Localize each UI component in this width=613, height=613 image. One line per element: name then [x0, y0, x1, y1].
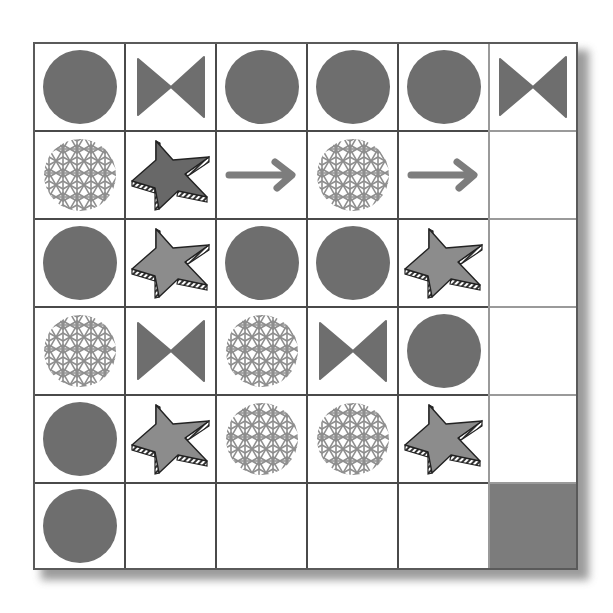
grid-cell-r2-c5	[399, 132, 490, 220]
grid-cell-r1-c1	[35, 44, 126, 132]
grid-cell-r1-c2	[126, 44, 217, 132]
grid-cell-r5-c6	[488, 396, 576, 484]
grid-cell-r4-c5	[399, 308, 490, 396]
patterned-circle-icon	[42, 313, 118, 389]
star-icon	[402, 402, 486, 476]
solid-circle-icon	[223, 48, 301, 126]
patterned-circle-icon	[42, 137, 118, 213]
grid-cell-r5-c5	[399, 396, 490, 484]
grid-cell-r6-c6	[488, 484, 576, 568]
grid-cell-r3-c5	[399, 220, 490, 308]
puzzle-stage	[0, 0, 613, 613]
grid-cell-r6-c2	[126, 484, 217, 568]
solid-circle-icon	[314, 224, 392, 302]
grid-cell-r4-c4	[308, 308, 399, 396]
grid-cell-r6-c5	[399, 484, 490, 568]
bowtie-icon	[136, 55, 206, 119]
grid-cell-r1-c3	[217, 44, 308, 132]
solid-circle-icon	[41, 48, 119, 126]
dark-star-icon	[129, 138, 213, 212]
bowtie-icon	[136, 319, 206, 383]
grid-cell-r6-c1	[35, 484, 126, 568]
grid-cell-r2-c6	[488, 132, 576, 220]
grid-cell-r3-c2	[126, 220, 217, 308]
solid-circle-icon	[41, 224, 119, 302]
grid-cell-r2-c3	[217, 132, 308, 220]
right-arrow-icon	[225, 158, 299, 192]
grid-cell-r4-c1	[35, 308, 126, 396]
bowtie-icon	[498, 55, 568, 119]
grid-cell-r2-c4	[308, 132, 399, 220]
grid-cell-r5-c1	[35, 396, 126, 484]
grid-cell-r5-c2	[126, 396, 217, 484]
grid-cell-r2-c2	[126, 132, 217, 220]
grid-cell-r4-c6	[488, 308, 576, 396]
grid-cell-r3-c3	[217, 220, 308, 308]
solid-circle-icon	[405, 312, 483, 390]
solid-circle-icon	[41, 487, 119, 565]
right-arrow-icon	[407, 158, 481, 192]
grid-cell-r4-c3	[217, 308, 308, 396]
patterned-circle-icon	[315, 137, 391, 213]
patterned-circle-icon	[224, 313, 300, 389]
grid-cell-r2-c1	[35, 132, 126, 220]
grid-cell-r3-c6	[488, 220, 576, 308]
grid-cell-r5-c4	[308, 396, 399, 484]
grid-cell-r5-c3	[217, 396, 308, 484]
grid-cell-r3-c4	[308, 220, 399, 308]
grid-cell-r1-c5	[399, 44, 490, 132]
bowtie-icon	[318, 319, 388, 383]
solid-circle-icon	[223, 224, 301, 302]
grid-cell-r4-c2	[126, 308, 217, 396]
star-icon	[129, 402, 213, 476]
grid-cell-r6-c3	[217, 484, 308, 568]
patterned-circle-icon	[224, 401, 300, 477]
grid-cell-r1-c4	[308, 44, 399, 132]
star-icon	[402, 226, 486, 300]
star-icon	[129, 226, 213, 300]
grid-cell-r1-c6	[488, 44, 576, 132]
pattern-grid	[33, 42, 578, 570]
patterned-circle-icon	[315, 401, 391, 477]
grid-cell-r3-c1	[35, 220, 126, 308]
solid-circle-icon	[41, 400, 119, 478]
solid-circle-icon	[314, 48, 392, 126]
grid-cell-r6-c4	[308, 484, 399, 568]
solid-circle-icon	[405, 48, 483, 126]
